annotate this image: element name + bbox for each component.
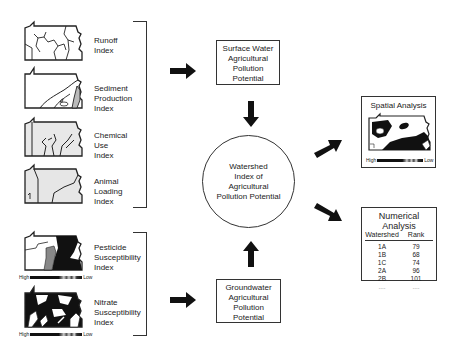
column-header-rank: Rank (399, 231, 433, 239)
box-line: Agricultural (217, 293, 280, 303)
rank-cell: 74 (399, 259, 433, 267)
box-line: Agricultural (217, 54, 279, 64)
rank-cell: .... (399, 283, 433, 291)
legend-low: Low (424, 157, 433, 163)
table-row: 1C 74 (365, 259, 433, 267)
surface-indices-bracket (133, 21, 147, 208)
box-line: Potential (217, 74, 279, 84)
numerical-table-header: Watershed Rank (365, 231, 433, 241)
nitrate-map (24, 287, 84, 329)
arrow-up-icon (243, 241, 259, 267)
arrow-down-right-icon (314, 203, 342, 225)
table-row: 2B 101 (365, 275, 433, 283)
arrow-right-icon (170, 292, 196, 308)
sediment-map (24, 68, 84, 110)
surface-water-box: Surface Water Agricultural Pollution Pot… (216, 40, 280, 85)
watershed-cell: .... (365, 283, 399, 291)
watershed-cell: 2B (365, 275, 399, 283)
watershed-cell: 1B (365, 251, 399, 259)
box-line: Potential (217, 313, 280, 323)
legend-gradient-bar (377, 159, 423, 162)
numerical-table-body: 1A 79 1B 68 1C 74 2A 96 2B 101 .... .... (362, 243, 436, 291)
label-line: Animal (94, 177, 122, 187)
label-line: Sediment (94, 84, 132, 94)
label-line: Production (94, 94, 132, 104)
column-header-watershed: Watershed (365, 231, 399, 239)
spatial-analysis-title: Spatial Analysis (362, 101, 435, 111)
arrow-right-icon (170, 63, 196, 79)
pesticide-map (24, 232, 84, 272)
legend-gradient-bar (30, 333, 82, 336)
rank-cell: 96 (399, 267, 433, 275)
runoff-index-label: Runoff Index (94, 36, 117, 56)
circle-line: Agricultural (228, 182, 268, 192)
watershed-cell: 1A (365, 243, 399, 251)
label-line: Index (94, 197, 122, 207)
box-line: Surface Water (217, 44, 279, 54)
legend-gradient-bar (30, 276, 82, 279)
label-line: Index (94, 104, 132, 114)
table-row: 1A 79 (365, 243, 433, 251)
groundwater-box: Groundwater Agricultural Pollution Poten… (216, 279, 281, 323)
arrow-up-right-icon (314, 137, 342, 159)
legend-low: Low (83, 331, 92, 337)
circle-line: Pollution Potential (216, 192, 280, 202)
animal-loading-index-label: Animal Loading Index (94, 177, 122, 207)
numerical-analysis-title: Numerical Analysis (362, 211, 436, 231)
watershed-cell: 2A (365, 267, 399, 275)
label-line: Index (94, 46, 117, 56)
spatial-analysis-panel: Spatial Analysis High Low (361, 96, 436, 168)
table-row: 1B 68 (365, 251, 433, 259)
rank-cell: 79 (399, 243, 433, 251)
legend-high: High (366, 157, 376, 163)
chemical-use-index-label: Chemical Use Index (94, 131, 127, 161)
label-line: Runoff (94, 36, 117, 46)
legend-high: High (19, 331, 29, 337)
label-line: Chemical (94, 131, 127, 141)
sediment-index-label: Sediment Production Index (94, 84, 132, 114)
spatial-analysis-map (368, 114, 432, 152)
watershed-cell: 1C (365, 259, 399, 267)
circle-line: Index of (234, 172, 262, 182)
label-line: Loading (94, 187, 122, 197)
box-line: Pollution (217, 303, 280, 313)
runoff-map (24, 22, 84, 62)
numerical-analysis-panel: Numerical Analysis Watershed Rank 1A 79 … (361, 207, 437, 281)
arrow-down-icon (243, 101, 259, 127)
legend-high: High (19, 274, 29, 280)
box-line: Pollution (217, 64, 279, 74)
legend-low: Low (83, 274, 92, 280)
ground-indices-bracket (133, 232, 147, 336)
box-line: Groundwater (217, 283, 280, 293)
pesticide-legend: High Low (19, 274, 92, 280)
circle-line: Watershed (229, 162, 267, 172)
spatial-legend: High Low (366, 157, 433, 163)
chemical-use-map (24, 118, 84, 158)
label-line: Index (94, 151, 127, 161)
label-line: Use (94, 141, 127, 151)
rank-cell: 101 (399, 275, 433, 283)
table-row-ellipsis: .... .... (365, 283, 433, 291)
table-row: 2A 96 (365, 267, 433, 275)
watershed-index-circle: Watershed Index of Agricultural Pollutio… (202, 135, 295, 228)
rank-cell: 68 (399, 251, 433, 259)
animal-loading-map (24, 165, 84, 205)
nitrate-legend: High Low (19, 331, 92, 337)
